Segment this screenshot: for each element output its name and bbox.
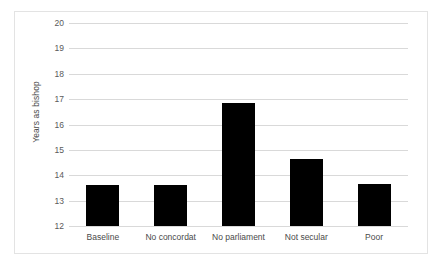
y-axis-tick-label: 14	[55, 170, 64, 180]
x-axis-tick-label: Poor	[365, 232, 383, 242]
bar[interactable]	[154, 185, 187, 226]
gridline	[69, 74, 408, 75]
bar[interactable]	[290, 159, 323, 226]
y-axis-tick-label: 17	[55, 94, 64, 104]
chart-container: Years as bishop 201918171615141312 Basel…	[14, 11, 428, 254]
y-axis-tick-label: 13	[55, 196, 64, 206]
plot-area: 201918171615141312 BaselineNo concordatN…	[69, 23, 408, 226]
x-axis-tick-label: No concordat	[145, 232, 196, 242]
bar[interactable]	[222, 103, 255, 226]
y-axis-tick-label: 18	[55, 69, 64, 79]
x-axis-tick-label: Baseline	[87, 232, 120, 242]
bar[interactable]	[358, 184, 391, 226]
y-axis-tick-label: 20	[55, 18, 64, 28]
gridline	[69, 99, 408, 100]
x-axis-tick-label: Not secular	[285, 232, 328, 242]
y-axis-tick-label: 19	[55, 43, 64, 53]
y-axis-tick-label: 15	[55, 145, 64, 155]
gridline	[69, 226, 408, 227]
bar[interactable]	[86, 185, 119, 226]
x-axis-tick-label: No parliament	[212, 232, 265, 242]
y-axis-title: Years as bishop	[31, 57, 41, 167]
gridline	[69, 23, 408, 24]
gridline	[69, 48, 408, 49]
y-axis-tick-label: 12	[55, 221, 64, 231]
y-axis-tick-label: 16	[55, 120, 64, 130]
